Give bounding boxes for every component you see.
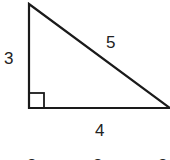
bottom-partial-digit-1: 3 [27,156,36,160]
vertical-leg-label: 3 [4,49,13,68]
bottom-partial-digit-2: 3 [93,156,102,160]
right-angle-marker [29,93,44,108]
triangle-outline [29,4,170,108]
bottom-partial-digit-3: 3 [158,156,167,160]
hypotenuse-label: 5 [106,33,115,52]
right-triangle-diagram: 3 5 4 3 3 3 [0,0,170,160]
horizontal-leg-label: 4 [95,121,104,140]
